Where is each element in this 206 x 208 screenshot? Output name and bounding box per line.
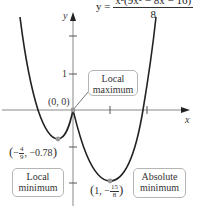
x-axis-label: x: [185, 114, 189, 125]
equation-numerator: x²(9x² − 8x − 16): [113, 0, 193, 8]
local-min-label: (−49, −0.78): [9, 146, 57, 161]
local-minimum-callout: Local minimum: [12, 168, 64, 197]
x-axis-arrow-icon: [181, 107, 190, 113]
equation-fraction: x²(9x² − 8x − 16) 8: [113, 0, 193, 21]
y-tick-label: 1: [62, 68, 67, 79]
y-axis-label: y: [63, 10, 67, 21]
origin-label: (0, 0): [48, 96, 70, 107]
local-maximum-callout: Local maximum: [88, 70, 138, 96]
equation-lhs: y =: [96, 0, 110, 12]
equation-denominator: 8: [113, 8, 193, 21]
absolute-minimum-callout: Absolute minimum: [133, 168, 186, 198]
absolute-min-label: (1, −158): [90, 184, 123, 199]
leader-line: [73, 92, 88, 110]
origin-point: [71, 108, 76, 113]
local-min-point: [56, 137, 61, 142]
function-equation: y = x²(9x² − 8x − 16) 8: [96, 0, 193, 21]
y-axis-arrow-icon: [70, 12, 76, 21]
